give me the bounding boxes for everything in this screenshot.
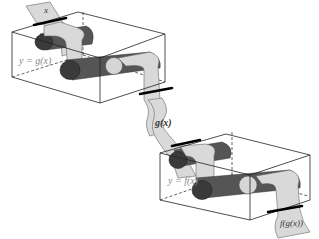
- composition-diagram: x y = g(x) g(x): [0, 0, 319, 239]
- bottom-box-edge: [160, 200, 250, 220]
- top-box-function-label: y = g(x): [18, 55, 52, 67]
- diagram-canvas: x y = g(x) g(x): [0, 0, 319, 239]
- bottom-box-function-label: y = f(x): [167, 175, 199, 187]
- top-machine: x y = g(x): [12, 2, 172, 136]
- output-label: f(g(x)): [280, 218, 303, 228]
- bottom-machine: y = f(x) f(g(x)): [160, 132, 310, 238]
- intermediate-label: g(x): [154, 117, 172, 129]
- input-label: x: [43, 5, 48, 15]
- top-box-edge: [12, 77, 100, 103]
